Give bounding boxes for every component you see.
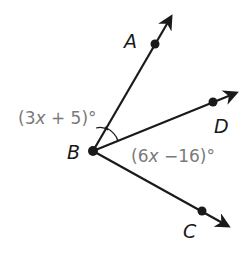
label-d: D — [214, 115, 229, 137]
angle-expression-abd: (3x + 5)° — [18, 108, 97, 128]
label-b: B — [67, 141, 80, 163]
angle-diagram: A B D C (3x + 5)° (6x −16)° — [0, 0, 246, 260]
point-d — [209, 98, 218, 107]
label-c: C — [183, 220, 197, 242]
point-a — [151, 40, 160, 49]
point-b — [88, 146, 98, 156]
point-c — [198, 207, 207, 216]
label-a: A — [122, 30, 137, 52]
angle-expression-dbc: (6x −16)° — [131, 146, 215, 166]
